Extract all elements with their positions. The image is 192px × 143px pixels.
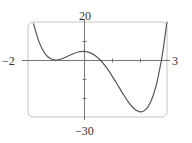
y-min-label: −30 xyxy=(75,125,94,137)
x-min-label: −2 xyxy=(2,55,15,67)
function-graph xyxy=(0,0,192,143)
function-curve xyxy=(34,22,167,112)
x-max-label: 3 xyxy=(172,55,178,67)
y-max-label: 20 xyxy=(79,10,91,22)
viewing-window-frame xyxy=(28,22,167,117)
